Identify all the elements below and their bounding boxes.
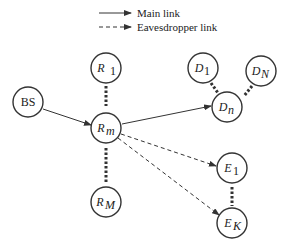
node-r1-sub: 1	[110, 64, 116, 78]
node-dN-sub: N	[260, 67, 270, 81]
node-d1-base: D	[194, 61, 204, 75]
node-dN: D N	[246, 56, 276, 86]
links	[43, 106, 219, 215]
node-r1-base: R	[96, 61, 105, 75]
legend-eavesdropper-link-label: Eavesdropper link	[137, 21, 218, 33]
node-rm-base: R	[96, 121, 105, 135]
node-eK: E K	[217, 208, 247, 238]
eavesdropper-link-rm-e1	[121, 134, 216, 166]
node-bs-label: BS	[21, 95, 36, 109]
node-dn-sub: n	[228, 103, 234, 117]
d1-dn-ellipsis	[211, 83, 218, 93]
node-d1: D 1	[188, 53, 218, 83]
node-r1: R 1	[91, 53, 121, 83]
node-e1: E 1	[217, 153, 247, 183]
main-link-rm-dn	[122, 106, 211, 124]
main-link-bs-rm	[43, 109, 91, 125]
node-dn-base: D	[218, 100, 228, 114]
dN-dn-ellipsis	[244, 86, 252, 96]
node-eK-sub: K	[232, 219, 242, 233]
node-e1-base: E	[223, 161, 232, 175]
node-rM: R M	[91, 187, 121, 217]
legend-main-link-label: Main link	[137, 7, 181, 19]
node-rM-sub: M	[104, 198, 116, 212]
node-bs: BS	[13, 87, 43, 117]
node-eK-base: E	[223, 216, 232, 230]
node-rm: R m	[91, 113, 121, 143]
node-dN-base: D	[251, 64, 261, 78]
legend: Main link Eavesdropper link	[99, 7, 218, 33]
node-dn: D n	[212, 92, 242, 122]
node-e1-sub: 1	[233, 164, 239, 178]
node-rM-base: R	[95, 195, 104, 209]
node-rm-sub: m	[106, 124, 115, 138]
node-d1-sub: 1	[204, 64, 210, 78]
network-diagram: Main link Eavesdropper link BS R 1 R m R…	[0, 0, 287, 252]
